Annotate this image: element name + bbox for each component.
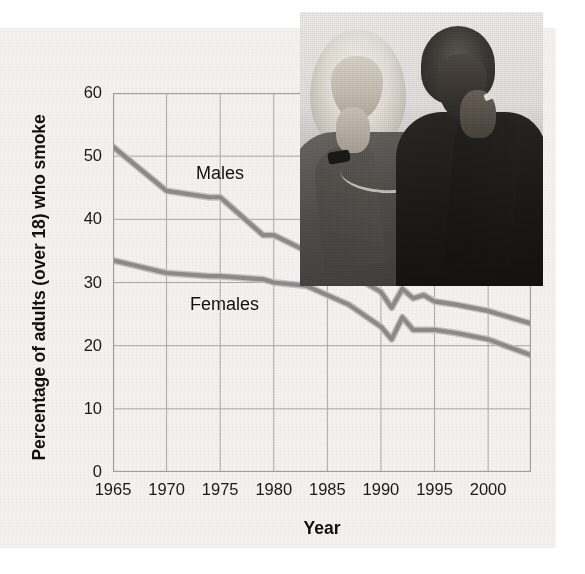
series-label-males: Males bbox=[196, 163, 244, 184]
x-tick-label: 2000 bbox=[458, 481, 518, 498]
x-tick-label: 1975 bbox=[190, 481, 250, 498]
x-axis-title: Year bbox=[113, 518, 531, 539]
y-tick-label: 60 bbox=[50, 84, 102, 101]
y-tick-label: 10 bbox=[50, 400, 102, 417]
figure-panel: Percentage of adults (over 18) who smoke… bbox=[0, 0, 585, 574]
photo-smokers bbox=[300, 12, 543, 286]
x-tick-label: 1990 bbox=[351, 481, 411, 498]
x-tick-label: 1995 bbox=[405, 481, 465, 498]
x-tick-label: 1980 bbox=[244, 481, 304, 498]
x-tick-label: 1985 bbox=[297, 481, 357, 498]
y-axis-title: Percentage of adults (over 18) who smoke bbox=[29, 88, 50, 488]
y-tick-label: 30 bbox=[50, 274, 102, 291]
x-tick-label: 1970 bbox=[137, 481, 197, 498]
y-tick-label: 0 bbox=[50, 463, 102, 480]
y-tick-label: 50 bbox=[50, 147, 102, 164]
series-label-females: Females bbox=[190, 294, 259, 315]
x-tick-label: 1965 bbox=[83, 481, 143, 498]
y-tick-label: 20 bbox=[50, 337, 102, 354]
photo-grain-overlay bbox=[300, 12, 543, 286]
y-tick-label: 40 bbox=[50, 210, 102, 227]
